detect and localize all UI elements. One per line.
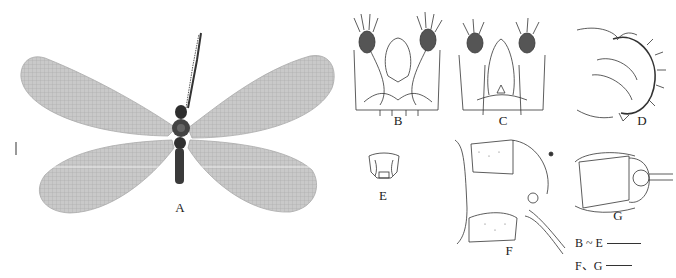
scale-bar-f-g: F、G: [575, 256, 632, 274]
structure-frontal-drawing: [365, 150, 405, 220]
panel-b-genitalia-dorsal: B: [350, 10, 445, 125]
panel-label-g: G: [608, 208, 628, 224]
scale-label-f-g: F、G: [575, 256, 602, 274]
genitalia-dorsal-drawing: [350, 10, 445, 125]
panel-label-d: D: [632, 113, 652, 129]
panel-f-terminalia-lateral: F: [455, 138, 565, 278]
panel-a-habitus: A: [0, 0, 340, 278]
panel-label-f: F: [499, 243, 519, 259]
scale-bar-b-e: B ~ E: [575, 236, 641, 251]
scale-label-b-e: B ~ E: [575, 236, 603, 251]
panel-label-c: C: [493, 113, 513, 129]
terminalia-ventral-drawing: [575, 148, 675, 238]
panel-g-terminalia-ventral: G: [575, 148, 675, 238]
panel-label-a: A: [170, 200, 190, 216]
panel-d-genitalia-lateral: D: [577, 25, 672, 125]
panel-c-genitalia-ventral: C: [455, 15, 550, 125]
genitalia-ventral-drawing: [455, 15, 550, 125]
scale-line-b-e: [607, 243, 641, 244]
panel-label-e: E: [373, 188, 393, 204]
panel-e-structure: E: [365, 150, 405, 220]
insect-photo: [0, 0, 340, 278]
panel-label-b: B: [388, 113, 408, 129]
scale-line-f-g: [606, 265, 632, 266]
genitalia-lateral-drawing: [577, 25, 672, 125]
